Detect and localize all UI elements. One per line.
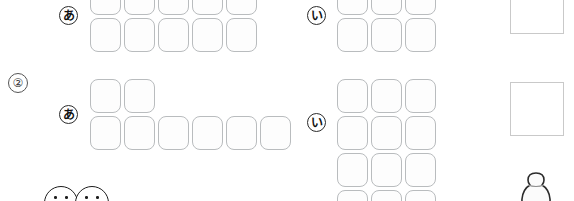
tile-row	[337, 0, 436, 15]
tile[interactable]	[90, 79, 121, 113]
tile[interactable]	[405, 18, 436, 52]
tile[interactable]	[90, 116, 121, 150]
tile[interactable]	[158, 18, 189, 52]
tile[interactable]	[337, 190, 368, 201]
tile[interactable]	[371, 0, 402, 15]
face-icon-right	[75, 186, 109, 201]
tile[interactable]	[405, 190, 436, 201]
tile[interactable]	[226, 18, 257, 52]
tile[interactable]	[371, 116, 402, 150]
tile[interactable]	[337, 0, 368, 15]
tile[interactable]	[337, 116, 368, 150]
tile-row	[337, 116, 436, 150]
tile-row	[337, 153, 436, 187]
tile-row	[337, 190, 436, 201]
tile[interactable]	[371, 153, 402, 187]
tile-grid-a-section1	[90, 0, 257, 52]
marker-a-section2: あ	[59, 105, 78, 124]
marker-i-section2: い	[307, 113, 326, 132]
tile[interactable]	[192, 18, 223, 52]
tile-grid-i-section1	[337, 0, 436, 52]
tile[interactable]	[124, 0, 155, 15]
tile[interactable]	[226, 0, 257, 15]
answer-box-section2[interactable]	[510, 82, 564, 136]
tile[interactable]	[158, 0, 189, 15]
tile[interactable]	[260, 116, 291, 150]
tile[interactable]	[192, 0, 223, 15]
eye-dot	[85, 196, 88, 199]
tile[interactable]	[90, 18, 121, 52]
eye-dot	[54, 196, 57, 199]
tile-row	[337, 18, 436, 52]
bottle-figure-svg	[512, 170, 560, 201]
marker-i-section1: い	[307, 6, 326, 25]
tile-row	[90, 18, 257, 52]
tile[interactable]	[226, 116, 257, 150]
tile[interactable]	[90, 0, 121, 15]
tile[interactable]	[371, 190, 402, 201]
tile[interactable]	[405, 0, 436, 15]
tile[interactable]	[405, 116, 436, 150]
eye-dot	[65, 196, 68, 199]
tile[interactable]	[371, 79, 402, 113]
tile[interactable]	[124, 79, 155, 113]
tile[interactable]	[158, 116, 189, 150]
tile-grid-i-section2	[337, 79, 436, 201]
tile[interactable]	[371, 18, 402, 52]
tile[interactable]	[405, 153, 436, 187]
tile[interactable]	[337, 153, 368, 187]
tile[interactable]	[337, 18, 368, 52]
tile[interactable]	[124, 116, 155, 150]
bottle-figure-icon	[512, 170, 560, 201]
tile[interactable]	[337, 79, 368, 113]
tile-row	[337, 79, 436, 113]
tile[interactable]	[124, 18, 155, 52]
tile-row	[90, 0, 257, 15]
tile-grid-a-section2	[90, 79, 291, 150]
worksheet-page: あ い ②	[0, 0, 574, 201]
answer-box-section1[interactable]	[510, 0, 564, 34]
eye-dot	[96, 196, 99, 199]
face-icon-left	[44, 186, 78, 201]
tile[interactable]	[192, 116, 223, 150]
tile-row	[90, 79, 291, 113]
tile-row	[90, 116, 291, 150]
marker-a-section1: あ	[59, 6, 78, 25]
section-number-2: ②	[8, 73, 28, 93]
tile[interactable]	[405, 79, 436, 113]
